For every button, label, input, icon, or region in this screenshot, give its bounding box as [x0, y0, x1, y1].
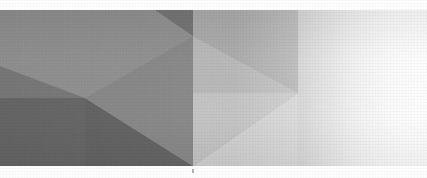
facet-group: [0, 10, 427, 166]
top-white-margin-band: [0, 0, 427, 10]
bottom-white-margin-band: [0, 166, 427, 178]
banner-root: [0, 0, 427, 178]
bottom-center-speck-artifact: [192, 169, 194, 173]
film-grain-overlay: [0, 10, 427, 166]
abstract-geometric-banner-image: [0, 0, 427, 178]
